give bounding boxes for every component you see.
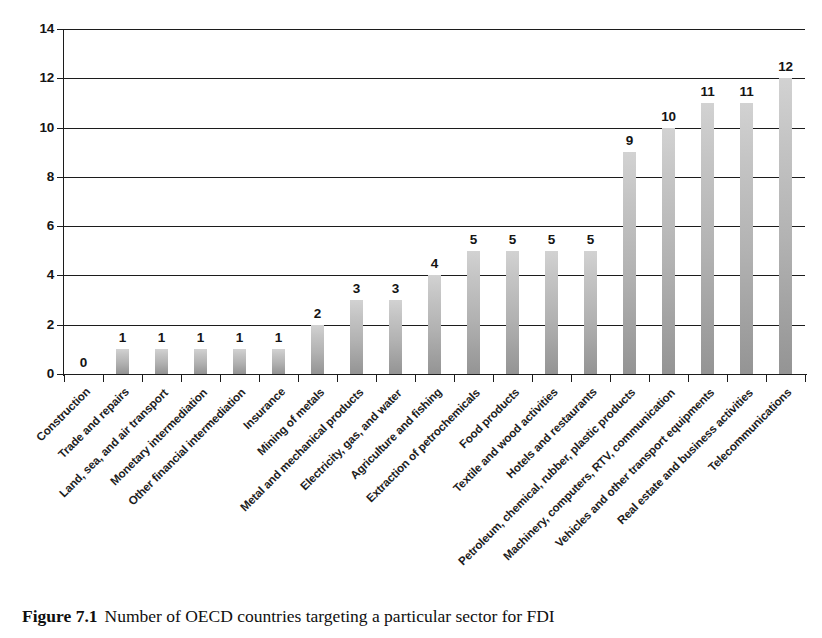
x-tick-mark: [532, 374, 533, 382]
x-tick-mark: [610, 374, 611, 382]
bar: [779, 78, 792, 374]
bar-chart: 01111123345555910111112 02468101214 Cons…: [0, 0, 822, 400]
bar: [272, 349, 285, 374]
x-tick-mark: [649, 374, 650, 382]
x-tick-mark: [688, 374, 689, 382]
y-tick-label-wrap: 10: [10, 121, 54, 135]
x-tick-mark: [142, 374, 143, 382]
x-axis-line: [57, 374, 807, 375]
bar: [155, 349, 168, 374]
x-tick-mark: [103, 374, 104, 382]
figure-caption: Figure 7.1Number of OECD countries targe…: [22, 606, 812, 626]
bar: [311, 325, 324, 374]
bar: [428, 275, 441, 374]
y-tick-label: 2: [14, 318, 54, 332]
gridline: [64, 226, 805, 227]
x-tick-mark: [766, 374, 767, 382]
y-tick-mark: [57, 177, 64, 178]
bar-value-label: 1: [103, 331, 143, 345]
bar: [662, 128, 675, 374]
bar-value-label: 1: [259, 331, 299, 345]
y-tick-mark: [57, 226, 64, 227]
bar-value-label: 11: [727, 85, 767, 99]
bar: [545, 251, 558, 374]
y-tick-label-wrap: 12: [10, 71, 54, 85]
gridline: [64, 128, 805, 129]
figure-container: 01111123345555910111112 02468101214 Cons…: [0, 0, 822, 638]
bar: [350, 300, 363, 374]
gridline: [64, 177, 805, 178]
x-tick-mark: [220, 374, 221, 382]
gridline: [64, 29, 805, 30]
x-tick-mark: [259, 374, 260, 382]
x-category-label: Trade and repairs: [56, 386, 131, 461]
bar: [740, 103, 753, 374]
bar: [584, 251, 597, 374]
bar-value-label: 11: [688, 85, 728, 99]
bar-value-label: 2: [298, 307, 338, 321]
y-tick-label: 10: [14, 121, 54, 135]
figure-caption-text: Number of OECD countries targeting a par…: [105, 606, 555, 626]
y-tick-label: 8: [14, 170, 54, 184]
y-tick-mark: [57, 128, 64, 129]
y-tick-label-wrap: 0: [10, 367, 54, 381]
bar-value-label: 3: [376, 282, 416, 296]
y-tick-label: 4: [14, 268, 54, 282]
x-tick-mark: [571, 374, 572, 382]
x-tick-mark: [64, 374, 65, 382]
y-tick-label-wrap: 4: [10, 268, 54, 282]
bar: [194, 349, 207, 374]
plot-area: 01111123345555910111112: [64, 29, 805, 374]
x-tick-mark: [805, 374, 806, 382]
x-tick-mark: [337, 374, 338, 382]
y-tick-label-wrap: 6: [10, 219, 54, 233]
bar-value-label: 3: [337, 282, 377, 296]
bar: [467, 251, 480, 374]
y-tick-mark: [57, 374, 64, 375]
bar: [701, 103, 714, 374]
y-tick-label: 12: [14, 71, 54, 85]
bar-value-label: 10: [649, 110, 689, 124]
bar: [623, 152, 636, 374]
y-tick-mark: [57, 275, 64, 276]
bar-value-label: 1: [220, 331, 260, 345]
x-tick-mark: [454, 374, 455, 382]
figure-number: Figure 7.1: [22, 606, 98, 626]
bar: [233, 349, 246, 374]
y-tick-label-wrap: 2: [10, 318, 54, 332]
bar-value-label: 5: [571, 233, 611, 247]
x-tick-mark: [727, 374, 728, 382]
bar-value-label: 9: [610, 134, 650, 148]
x-tick-mark: [376, 374, 377, 382]
x-tick-mark: [415, 374, 416, 382]
bar-value-label: 5: [532, 233, 572, 247]
bar-value-label: 4: [415, 257, 455, 271]
bar-value-label: 5: [454, 233, 494, 247]
bar-value-label: 1: [142, 331, 182, 345]
y-tick-mark: [57, 325, 64, 326]
x-tick-mark: [298, 374, 299, 382]
bar: [389, 300, 402, 374]
y-tick-label: 14: [14, 22, 54, 36]
bar: [116, 349, 129, 374]
x-tick-mark: [181, 374, 182, 382]
bar-value-label: 0: [64, 356, 104, 370]
bar-value-label: 1: [181, 331, 221, 345]
x-tick-mark: [493, 374, 494, 382]
y-tick-label: 0: [14, 367, 54, 381]
bar: [506, 251, 519, 374]
y-tick-label: 6: [14, 219, 54, 233]
y-tick-label-wrap: 14: [10, 22, 54, 36]
y-tick-label-wrap: 8: [10, 170, 54, 184]
y-tick-mark: [57, 29, 64, 30]
bar-value-label: 12: [766, 60, 806, 74]
gridline: [64, 78, 805, 79]
bar-value-label: 5: [493, 233, 533, 247]
y-tick-mark: [57, 78, 64, 79]
